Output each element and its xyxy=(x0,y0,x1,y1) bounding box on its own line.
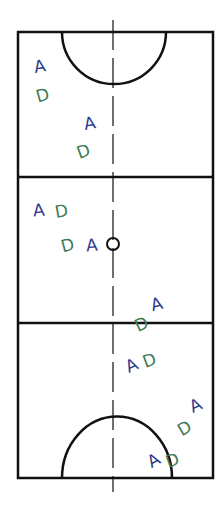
attacker-marker: A xyxy=(85,237,98,255)
attacker-marker: A xyxy=(83,114,97,133)
attacker-marker: A xyxy=(33,57,47,76)
goal-circle-top xyxy=(62,32,166,84)
defender-marker: D xyxy=(54,202,70,221)
attacker-marker: A xyxy=(32,202,45,220)
